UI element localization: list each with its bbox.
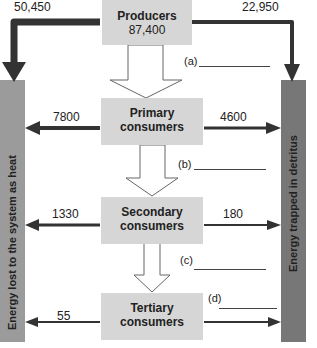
blank-d-line[interactable]	[219, 308, 277, 309]
tertiary-heat-value: 55	[57, 309, 70, 323]
producers-heat-value: 50,450	[14, 0, 51, 14]
secondary-title-2: consumers	[101, 219, 203, 233]
blank-c-label: (c)	[180, 254, 193, 266]
blank-d-label: (d)	[208, 292, 221, 304]
primary-node: Primary consumers	[101, 98, 203, 145]
primary-detritus-value: 4600	[220, 110, 247, 124]
blank-b-line[interactable]	[194, 169, 266, 170]
primary-title-2: consumers	[101, 120, 203, 134]
secondary-title-1: Secondary	[101, 205, 203, 219]
primary-title-1: Primary	[101, 106, 203, 120]
blank-c-line[interactable]	[194, 269, 266, 270]
tertiary-title-1: Tertiary	[101, 301, 203, 315]
tertiary-title-2: consumers	[101, 315, 203, 329]
producers-node: Producers 87,400	[102, 0, 192, 45]
blank-a-label: (a)	[184, 55, 197, 67]
secondary-node: Secondary consumers	[101, 197, 203, 244]
secondary-heat-value: 1330	[52, 207, 79, 221]
secondary-detritus-value: 180	[223, 207, 243, 221]
producers-value: 87,400	[102, 23, 192, 37]
primary-heat-value: 7800	[53, 110, 80, 124]
blank-b-label: (b)	[178, 158, 191, 170]
blank-a-line[interactable]	[199, 66, 270, 67]
tertiary-node: Tertiary consumers	[101, 293, 203, 340]
producers-title: Producers	[102, 9, 192, 23]
producers-detritus-value: 22,950	[242, 0, 279, 14]
